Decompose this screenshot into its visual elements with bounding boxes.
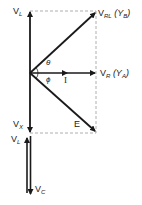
phi-label: ϕ — [46, 76, 50, 84]
phi-arc — [36, 73, 38, 79]
e-vector — [30, 73, 95, 131]
vr-label: VR (YA) — [100, 69, 129, 79]
vrl-vector — [30, 13, 95, 73]
phasor-diagram — [0, 0, 142, 205]
current-label: I — [64, 76, 67, 85]
vc-label: VC — [35, 185, 45, 195]
theta-label: θ — [46, 59, 50, 67]
e-label: E — [74, 120, 80, 129]
vx-label: VX — [13, 120, 23, 130]
vl-top-label: VL — [13, 7, 22, 17]
vrl-label: VRL (YB) — [98, 9, 130, 19]
theta-arc — [36, 68, 38, 74]
vl-bottom-label: VL — [11, 135, 20, 145]
